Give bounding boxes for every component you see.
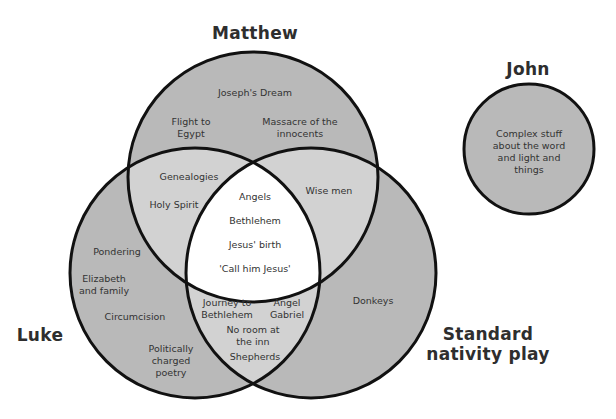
region-item: Shepherds — [230, 351, 281, 363]
region-item: Donkeys — [353, 295, 394, 307]
region-item: Jesus' birth — [229, 239, 282, 251]
region-item: No room at the inn — [226, 324, 279, 348]
standard-title: Standard nativity play — [426, 324, 550, 364]
matthew-title: Matthew — [212, 23, 298, 43]
region-item: Joseph's Dream — [218, 87, 292, 99]
region-item: Journey to Bethlehem — [201, 297, 253, 321]
region-item: Massacre of the innocents — [262, 116, 337, 140]
region-item: Complex stuff about the word and light a… — [493, 128, 565, 176]
region-item: Wise men — [306, 185, 353, 197]
region-item: Elizabeth and family — [79, 273, 129, 297]
region-item: Pondering — [93, 246, 141, 258]
region-item: Holy Spirit — [149, 199, 198, 211]
region-item: Angel Gabriel — [270, 297, 304, 321]
region-item: Flight to Egypt — [171, 116, 210, 140]
region-item: Politically charged poetry — [149, 343, 194, 379]
region-item: 'Call him Jesus' — [219, 263, 290, 275]
luke-title: Luke — [17, 325, 64, 345]
region-item: Genealogies — [160, 171, 219, 183]
john-title: John — [506, 59, 549, 79]
region-item: Bethlehem — [229, 215, 281, 227]
region-item: Angels — [239, 191, 271, 203]
region-item: Circumcision — [105, 311, 166, 323]
